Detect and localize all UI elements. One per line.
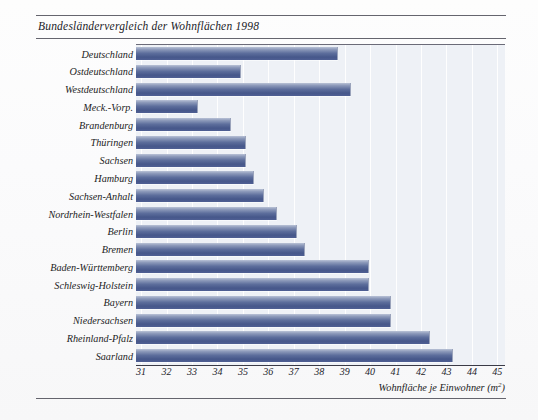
bar xyxy=(136,260,369,273)
category-label: Saarland xyxy=(3,350,133,363)
bar-row xyxy=(136,63,505,81)
tick-label-41: 41 xyxy=(383,366,409,377)
tick-label-36: 36 xyxy=(255,366,281,377)
bar xyxy=(136,136,246,149)
bar xyxy=(136,314,391,327)
bar-row xyxy=(136,258,505,276)
tick-label-31: 31 xyxy=(128,366,154,377)
bar xyxy=(136,243,305,256)
category-label: Baden-Württemberg xyxy=(3,261,133,274)
bar-row xyxy=(136,223,505,241)
bar xyxy=(136,100,198,113)
bar-row xyxy=(136,134,505,152)
bar xyxy=(136,118,231,131)
category-label: Westdeutschland xyxy=(3,83,133,96)
tick-label-40: 40 xyxy=(357,366,383,377)
bar-row xyxy=(136,241,505,259)
x-axis-title-text: Wohnfläche je Einwohner (m xyxy=(379,382,498,393)
category-label: Ostdeutschland xyxy=(3,65,133,78)
bar xyxy=(136,154,246,167)
chart-title: Bundesländervergleich der Wohnflächen 19… xyxy=(38,20,259,32)
bar xyxy=(136,278,369,291)
bar-row xyxy=(136,205,505,223)
tick-label-35: 35 xyxy=(230,366,256,377)
category-label: Sachsen xyxy=(3,154,133,167)
tick-label-32: 32 xyxy=(154,366,180,377)
plot-area xyxy=(136,45,505,365)
bar xyxy=(136,65,241,78)
tick-label-43: 43 xyxy=(433,366,459,377)
bar-row xyxy=(136,152,505,170)
bar xyxy=(136,47,338,60)
bar-row xyxy=(136,169,505,187)
bar xyxy=(136,83,351,96)
category-label: Brandenburg xyxy=(3,119,133,132)
bar xyxy=(136,225,297,238)
tick-label-42: 42 xyxy=(408,366,434,377)
bar xyxy=(136,331,430,344)
bar-row xyxy=(136,98,505,116)
category-label: Nordrhein-Westfalen xyxy=(3,208,133,221)
tick-label-34: 34 xyxy=(204,366,230,377)
tick-label-39: 39 xyxy=(332,366,358,377)
bar-row xyxy=(136,81,505,99)
bar-row xyxy=(136,116,505,134)
category-label: Rheinland-Pfalz xyxy=(3,332,133,345)
x-axis-tick-labels: 313233343536373839404142434445 xyxy=(136,366,505,380)
top-rule xyxy=(36,15,506,16)
tick-label-37: 37 xyxy=(281,366,307,377)
bar xyxy=(136,171,254,184)
category-label: Bayern xyxy=(3,296,133,309)
tick-label-45: 45 xyxy=(484,366,510,377)
category-label: Bremen xyxy=(3,243,133,256)
bottom-rule xyxy=(36,398,506,399)
bar xyxy=(136,207,277,220)
bar-row xyxy=(136,276,505,294)
bar-row xyxy=(136,187,505,205)
bar-row xyxy=(136,45,505,63)
category-label: Deutschland xyxy=(3,48,133,61)
category-label: Sachsen-Anhalt xyxy=(3,190,133,203)
category-label: Berlin xyxy=(3,225,133,238)
tick-label-33: 33 xyxy=(179,366,205,377)
bar xyxy=(136,189,264,202)
tick-label-38: 38 xyxy=(306,366,332,377)
category-label: Meck.-Vorp. xyxy=(3,101,133,114)
category-label: Thüringen xyxy=(3,136,133,149)
x-axis-title-close: ) xyxy=(502,382,505,393)
tick-label-44: 44 xyxy=(459,366,485,377)
bar-row xyxy=(136,294,505,312)
category-label-column: DeutschlandOstdeutschlandWestdeutschland… xyxy=(0,45,133,365)
bar-row xyxy=(136,329,505,347)
title-underline-rule xyxy=(36,38,506,39)
category-label: Schleswig-Holstein xyxy=(3,279,133,292)
bar xyxy=(136,349,453,362)
category-label: Niedersachsen xyxy=(3,314,133,327)
category-label: Hamburg xyxy=(3,172,133,185)
bar-row xyxy=(136,347,505,365)
bar-row xyxy=(136,312,505,330)
x-axis-title: Wohnfläche je Einwohner (m2) xyxy=(379,381,505,393)
bar xyxy=(136,296,391,309)
